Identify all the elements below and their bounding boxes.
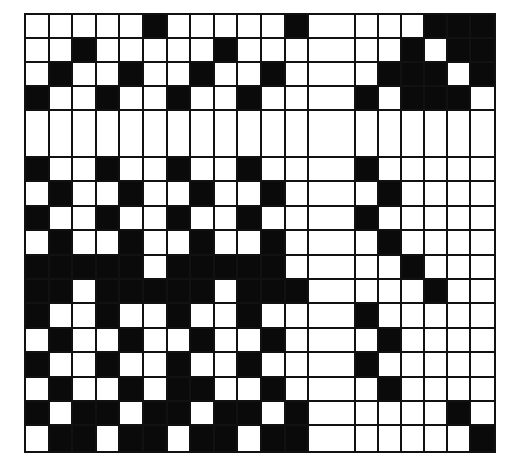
grid-cell-empty <box>168 111 192 158</box>
grid-cell-empty <box>379 426 402 450</box>
grid-cell-filled <box>238 353 262 377</box>
grid-cell-filled <box>356 158 379 182</box>
grid-cell-filled <box>73 39 97 63</box>
grid-cell-empty <box>97 378 121 402</box>
grid-cell-filled <box>356 304 379 328</box>
grid-cell-empty <box>309 353 356 377</box>
grid-cell-empty <box>286 39 310 63</box>
grid-cell-empty <box>356 111 379 158</box>
grid-cell-empty <box>402 402 425 426</box>
grid-cell-filled <box>238 402 262 426</box>
grid-cell-filled <box>26 158 50 182</box>
grid-cell-filled <box>168 158 192 182</box>
grid-cell-empty <box>262 39 286 63</box>
grid-cell-empty <box>144 256 168 280</box>
grid-cell-empty <box>144 39 168 63</box>
grid-cell-filled <box>471 15 494 39</box>
grid-cell-empty <box>356 39 379 63</box>
grid-cell-filled <box>97 256 121 280</box>
grid-cell-empty <box>73 63 97 87</box>
grid-cell-empty <box>309 63 356 87</box>
grid-cell-empty <box>309 39 356 63</box>
grid-cell-empty <box>471 280 494 304</box>
grid-cell-empty <box>309 15 356 39</box>
grid-cell-empty <box>262 353 286 377</box>
grid-cell-empty <box>286 63 310 87</box>
grid-cell-filled <box>425 280 448 304</box>
grid-cell-filled <box>262 231 286 255</box>
grid-cell-empty <box>309 280 356 304</box>
grid-cell-filled <box>26 402 50 426</box>
grid-cell-empty <box>215 15 239 39</box>
grid-cell-filled <box>191 280 215 304</box>
grid-cell-filled <box>120 231 144 255</box>
grid-cell-filled <box>168 87 192 111</box>
grid-cell-filled <box>262 426 286 450</box>
grid-cell-filled <box>448 39 471 63</box>
grid-cell-empty <box>309 402 356 426</box>
grid-cell-empty <box>73 329 97 353</box>
grid-cell-filled <box>120 63 144 87</box>
grid-cell-empty <box>379 207 402 231</box>
grid-cell-empty <box>379 158 402 182</box>
grid-cell-empty <box>238 426 262 450</box>
grid-cell-empty <box>402 378 425 402</box>
grid-cell-empty <box>309 378 356 402</box>
grid-cell-empty <box>286 378 310 402</box>
grid-cell-empty <box>309 304 356 328</box>
grid-cell-empty <box>144 353 168 377</box>
grid-cell-empty <box>238 15 262 39</box>
grid-cell-empty <box>262 304 286 328</box>
grid-cell-filled <box>286 15 310 39</box>
grid-cell-empty <box>286 111 310 158</box>
grid-cell-filled <box>168 304 192 328</box>
grid-cell-empty <box>286 158 310 182</box>
grid-cell-empty <box>73 111 97 158</box>
grid-cell-filled <box>50 329 74 353</box>
grid-cell-empty <box>120 304 144 328</box>
grid-cell-filled <box>402 39 425 63</box>
grid-cell-empty <box>97 329 121 353</box>
grid-cell-empty <box>471 304 494 328</box>
grid-cell-empty <box>97 182 121 206</box>
grid-cell-filled <box>238 256 262 280</box>
grid-cell-empty <box>50 15 74 39</box>
grid-cell-empty <box>144 304 168 328</box>
grid-cell-filled <box>471 39 494 63</box>
grid-cell-empty <box>73 182 97 206</box>
grid-cell-empty <box>191 39 215 63</box>
grid-cell-empty <box>215 231 239 255</box>
grid-cell-empty <box>425 304 448 328</box>
grid-cell-empty <box>144 231 168 255</box>
grid-cell-empty <box>215 158 239 182</box>
grid-cell-empty <box>356 256 379 280</box>
grid-cell-empty <box>448 378 471 402</box>
grid-cell-empty <box>286 207 310 231</box>
grid-cell-empty <box>191 304 215 328</box>
grid-cell-filled <box>191 256 215 280</box>
grid-cell-filled <box>191 182 215 206</box>
grid-cell-empty <box>379 353 402 377</box>
grid-cell-empty <box>191 15 215 39</box>
grid-cell-empty <box>425 426 448 450</box>
grid-cell-filled <box>425 63 448 87</box>
canvas <box>0 0 516 468</box>
grid-cell-empty <box>144 182 168 206</box>
grid-cell-filled <box>73 256 97 280</box>
grid-cell-empty <box>262 158 286 182</box>
grid-cell-empty <box>448 111 471 158</box>
grid-cell-empty <box>286 87 310 111</box>
grid-cell-empty <box>425 378 448 402</box>
grid-cell-filled <box>215 426 239 450</box>
grid-cell-empty <box>425 353 448 377</box>
grid-cell-empty <box>309 231 356 255</box>
grid-cell-filled <box>120 426 144 450</box>
grid-cell-empty <box>425 231 448 255</box>
grid-cell-filled <box>144 15 168 39</box>
grid-cell-empty <box>402 182 425 206</box>
grid-cell-empty <box>379 111 402 158</box>
grid-cell-empty <box>402 280 425 304</box>
grid-cell-empty <box>73 280 97 304</box>
grid-cell-empty <box>120 39 144 63</box>
grid-cell-empty <box>448 256 471 280</box>
